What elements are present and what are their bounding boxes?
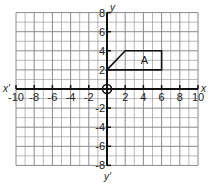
x-tick-label: 2: [122, 91, 128, 103]
x-tick-label: 8: [177, 91, 183, 103]
y-tick-label: -4: [95, 121, 105, 133]
x-axis-negative-label: x': [2, 83, 11, 94]
x-tick-label: 6: [159, 91, 165, 103]
x-axis-positive-label: x: [200, 83, 207, 94]
y-tick-label: -2: [95, 102, 105, 114]
x-tick-label: -2: [84, 91, 94, 103]
x-tick-label: -4: [66, 91, 76, 103]
x-tick-label: 4: [140, 91, 146, 103]
x-tick-label: -10: [8, 91, 24, 103]
y-tick-label: 6: [99, 26, 105, 38]
y-tick-label: 2: [99, 64, 105, 76]
y-axis-negative-label: y': [103, 171, 112, 182]
y-tick-label: 8: [99, 7, 105, 19]
y-tick-label: 4: [99, 45, 105, 57]
x-tick-label: -6: [48, 91, 58, 103]
y-tick-label: -8: [95, 159, 105, 171]
y-tick-label: -6: [95, 140, 105, 152]
y-axis-positive-label: y: [109, 2, 116, 13]
x-tick-label: -8: [29, 91, 39, 103]
shape-label: A: [141, 54, 149, 66]
coordinate-grid: -10-8-6-4-22468108642-2-4-6-8 A x x' y y…: [0, 0, 215, 185]
